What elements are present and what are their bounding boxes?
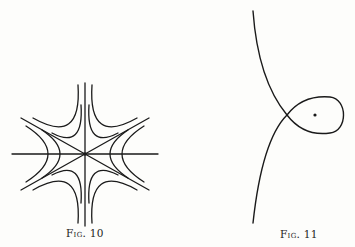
fig11-dot bbox=[313, 113, 316, 116]
fig10-curve-upper-left-outer bbox=[33, 85, 78, 127]
fig10-curve-lower-left-outer bbox=[33, 181, 78, 223]
fig11-lower-branch bbox=[253, 115, 287, 223]
figure-10-diagram bbox=[0, 0, 355, 247]
fig10-curve-upper-right-outer bbox=[92, 85, 137, 127]
fig11-upper-branch bbox=[253, 11, 287, 115]
fig10-curve-lower-right-outer bbox=[92, 181, 137, 223]
fig10-caption: Fig. 10 bbox=[66, 227, 104, 239]
fig10-center-point bbox=[83, 152, 87, 156]
fig11-caption: Fig. 11 bbox=[280, 228, 318, 240]
